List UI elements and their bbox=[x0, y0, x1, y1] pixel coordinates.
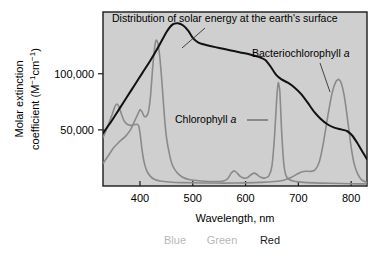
figure-container: 40050060070080050,000100,000Wavelength, … bbox=[0, 0, 379, 256]
spectral-absorption-chart: 40050060070080050,000100,000Wavelength, … bbox=[0, 0, 379, 256]
x-tick-label-600: 600 bbox=[236, 192, 254, 204]
spectrum-band-labels: BlueGreenRed bbox=[164, 234, 280, 246]
x-tick-label-800: 800 bbox=[342, 192, 360, 204]
x-axis-title: Wavelength, nm bbox=[195, 212, 274, 224]
band-label-red: Red bbox=[260, 234, 280, 246]
y-tick-label-100000: 100,000 bbox=[54, 68, 94, 80]
x-tick-label-500: 500 bbox=[184, 192, 202, 204]
x-tick-label-400: 400 bbox=[131, 192, 149, 204]
bacteriochlorophyll-annotation: Bacteriochlorophyll a bbox=[252, 47, 350, 59]
chlorophyll-annotation: Chlorophyll a bbox=[175, 113, 236, 125]
y-axis-title-line1: Molar extinction bbox=[13, 60, 25, 137]
x-tick-label-700: 700 bbox=[289, 192, 307, 204]
y-tick-label-50000: 50,000 bbox=[60, 124, 94, 136]
solar-energy-annotation: Distribution of solar energy at the eart… bbox=[112, 12, 338, 24]
band-label-green: Green bbox=[207, 234, 238, 246]
band-label-blue: Blue bbox=[164, 234, 186, 246]
y-axis-title-line2: coefficient (M−1cm−1) bbox=[28, 48, 41, 150]
plot-area bbox=[103, 12, 367, 186]
plot-background bbox=[103, 12, 367, 186]
